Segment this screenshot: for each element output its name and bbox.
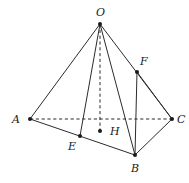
vertex-dot-F <box>135 70 139 74</box>
vertex-label-C: C <box>177 114 185 125</box>
vertex-label-H: H <box>110 126 120 137</box>
dashed-edge-group <box>30 24 172 131</box>
vertex-label-E: E <box>68 141 76 152</box>
vertex-dot-B <box>133 153 137 157</box>
vertex-label-A: A <box>12 114 20 125</box>
vertex-dot-A <box>28 117 32 121</box>
vertex-dot-H <box>98 129 102 133</box>
vertex-label-O: O <box>96 7 105 18</box>
solid-edge-group <box>30 24 172 155</box>
vertex-dot-O <box>98 22 102 26</box>
edge-FB <box>135 72 137 155</box>
edge-FC <box>137 72 172 119</box>
edge-BC <box>135 119 172 155</box>
vertex-label-F: F <box>140 56 148 67</box>
geometry-figure: OACBEFH <box>0 0 189 183</box>
vertex-dot-E <box>78 134 82 138</box>
geometry-canvas <box>0 0 189 183</box>
edge-OA <box>30 24 100 119</box>
vertex-dot-C <box>170 117 174 121</box>
vertex-dot-group <box>28 22 174 157</box>
vertex-label-B: B <box>131 163 139 174</box>
